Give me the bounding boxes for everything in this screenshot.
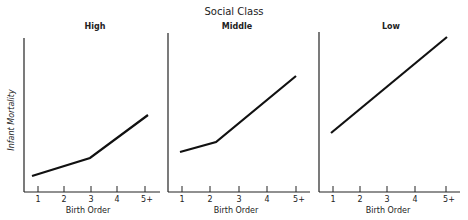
svg-text:5+: 5+: [443, 195, 455, 204]
panel-high: High 12345+ Birth Order: [24, 22, 160, 215]
svg-text:2: 2: [207, 195, 212, 204]
data-line: [331, 37, 447, 133]
panel-middle: Middle 12345+ Birth Order: [168, 22, 310, 215]
panel-title: Low: [382, 22, 401, 31]
panel-title: High: [85, 22, 106, 31]
chart-title: Social Class: [204, 6, 263, 17]
svg-text:5+: 5+: [293, 195, 305, 204]
svg-text:1: 1: [35, 195, 40, 204]
svg-text:1: 1: [330, 195, 335, 204]
data-line: [32, 115, 148, 176]
x-tick-labels: 12345+: [179, 195, 304, 204]
y-axis-label: Infant Mortality: [7, 89, 16, 151]
x-axis-label: Birth Order: [66, 206, 111, 215]
x-tick-labels: 12345+: [35, 195, 152, 204]
svg-text:5+: 5+: [141, 195, 153, 204]
svg-text:4: 4: [114, 195, 119, 204]
svg-text:2: 2: [357, 195, 362, 204]
x-axis-label: Birth Order: [214, 206, 259, 215]
svg-text:3: 3: [384, 195, 389, 204]
x-axis-label: Birth Order: [366, 206, 411, 215]
x-tick-labels: 12345+: [330, 195, 454, 204]
x-ticks: [38, 186, 145, 192]
x-ticks: [333, 186, 446, 192]
svg-text:3: 3: [88, 195, 93, 204]
svg-text:1: 1: [179, 195, 184, 204]
svg-text:4: 4: [264, 195, 269, 204]
svg-text:4: 4: [412, 195, 417, 204]
x-ticks: [182, 186, 296, 192]
panel-low: Low 12345+ Birth Order: [319, 22, 460, 215]
panel-title: Middle: [222, 22, 253, 31]
svg-text:3: 3: [236, 195, 241, 204]
data-line: [180, 76, 296, 152]
svg-text:2: 2: [61, 195, 66, 204]
social-class-chart: Social Class Infant Mortality High 12345…: [0, 0, 468, 220]
